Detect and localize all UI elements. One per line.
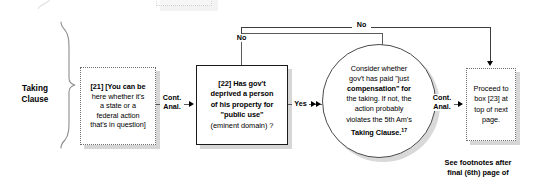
box22-line-3: of his property for bbox=[211, 100, 274, 110]
footnote-line1: See footnotes after bbox=[419, 158, 537, 168]
footnote-note: See footnotes after final (6th) page of bbox=[419, 158, 537, 178]
edge-arrow-into-oval bbox=[316, 101, 321, 107]
box21-line-2: here whether it's bbox=[90, 92, 146, 102]
box21-line-1: [21] [You can be bbox=[90, 82, 146, 92]
box23-line-2: box [23] at bbox=[474, 94, 509, 104]
box22-line-1: [22] Has gov't bbox=[211, 79, 274, 89]
oval-line-2: gov't has paid "just bbox=[346, 74, 412, 84]
oval-line-6: violates the 5th Am's bbox=[346, 115, 412, 125]
cont-anal-right-line2: Anal. bbox=[430, 103, 454, 112]
section-brace bbox=[58, 20, 80, 150]
box22-text: [22] Has gov't deprived a person of his … bbox=[211, 79, 274, 131]
oval-footnote-marker: 17 bbox=[401, 127, 407, 133]
edge-label-cont-anal-right: Cont. Anal. bbox=[430, 94, 454, 111]
edge-arrow-oval-to-box23 bbox=[458, 101, 463, 107]
box22-line-4: "public use" bbox=[211, 110, 274, 120]
oval-line-2-text: gov't has paid "just bbox=[349, 74, 409, 83]
cont-anal-left-line2: Anal. bbox=[160, 103, 184, 112]
node-oval-just-compensation[interactable]: Consider whether gov't has paid "just co… bbox=[322, 44, 436, 158]
section-label-line1: Taking bbox=[6, 84, 64, 95]
flowchart-canvas: Taking Clause [21] [You can be here whet… bbox=[0, 0, 546, 183]
edge-label-yes: Yes bbox=[292, 100, 309, 108]
box21-text: [21] [You can be here whether it's a sta… bbox=[90, 82, 146, 130]
section-label-taking-clause: Taking Clause bbox=[6, 84, 64, 105]
oval-line-7-text: Taking Clause. bbox=[351, 128, 401, 137]
box21-line-4: federal action bbox=[90, 111, 146, 121]
footnote-line2: final (6th) page of bbox=[419, 168, 537, 178]
edge-arrow-21-to-22 bbox=[189, 101, 194, 107]
node-box-21[interactable]: [21] [You can be here whether it's a sta… bbox=[80, 67, 156, 145]
oval-text: Consider whether gov't has paid "just co… bbox=[346, 64, 412, 139]
box22-line-5: (eminent domain) ? bbox=[211, 121, 274, 131]
node-box-23-pointer[interactable]: Proceed to box [23] at top of next page. bbox=[466, 68, 516, 141]
edge-arrow-no-outer-into-box23 bbox=[487, 61, 493, 66]
edge-label-no-inner: No bbox=[233, 34, 250, 42]
section-label-line2: Clause bbox=[6, 95, 64, 106]
box21-line-3: a state or a bbox=[90, 101, 146, 111]
oval-line-3-text: compensation" for bbox=[347, 84, 411, 93]
oval-line-7: Taking Clause.17 bbox=[346, 125, 412, 139]
artifact-brace-top bbox=[36, 0, 62, 10]
box23-line-3: top of next bbox=[474, 105, 509, 115]
oval-line-5: action probably bbox=[346, 104, 412, 114]
box23-line-1: Proceed to bbox=[474, 84, 509, 94]
artifact-box-top bbox=[156, 0, 212, 6]
edge-label-cont-anal-left: Cont. Anal. bbox=[160, 94, 184, 111]
box23-text: Proceed to box [23] at top of next page. bbox=[474, 84, 509, 126]
no-outer-text: No bbox=[357, 20, 367, 29]
edge-line-no-inner-horizontal bbox=[241, 33, 383, 34]
no-inner-text: No bbox=[237, 33, 247, 42]
edge-line-no-outer-vertical-right bbox=[490, 27, 491, 62]
oval-line-1: Consider whether bbox=[346, 64, 412, 74]
oval-line-3: compensation" for bbox=[346, 84, 412, 94]
box23-line-4: page. bbox=[474, 115, 509, 125]
edge-label-no-outer: No bbox=[352, 21, 371, 29]
box22-line-2: deprived a person bbox=[211, 89, 274, 99]
box21-line-5: that's in question] bbox=[90, 120, 146, 130]
yes-text: Yes bbox=[294, 99, 306, 108]
node-box-22[interactable]: [22] Has gov't deprived a person of his … bbox=[196, 65, 288, 145]
oval-line-4: the taking. If not, the bbox=[346, 94, 412, 104]
